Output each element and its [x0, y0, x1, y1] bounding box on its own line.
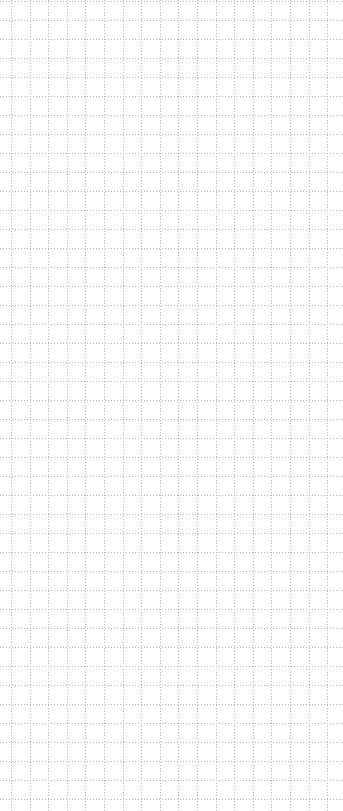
dotted-grid: [0, 0, 343, 811]
grid-paper: [0, 0, 343, 811]
